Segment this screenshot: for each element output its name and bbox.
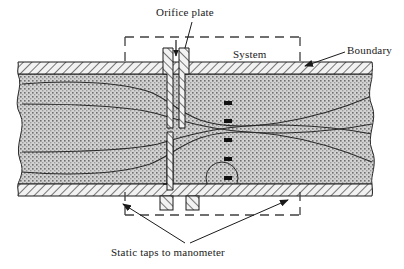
pipe-fluid-interior (17, 74, 374, 184)
label-system: System (233, 48, 267, 60)
label-orifice-plate: Orifice plate (156, 6, 214, 18)
pipe-top-wall (18, 62, 373, 74)
leader-orifice-plate (185, 22, 192, 48)
label-boundary: Boundary (347, 44, 392, 56)
pipe-bottom-wall (18, 184, 373, 196)
static-tap-blocks (160, 196, 199, 210)
static-tap-block-downstream (186, 196, 199, 210)
orifice-plate-lower (167, 132, 173, 190)
static-tap-block-upstream (160, 196, 173, 210)
label-static-taps: Static taps to manometer (111, 246, 225, 258)
leader-static-tap-right (190, 200, 288, 243)
orifice-plate-diagram (0, 0, 404, 269)
leader-static-tap-left (123, 204, 185, 243)
